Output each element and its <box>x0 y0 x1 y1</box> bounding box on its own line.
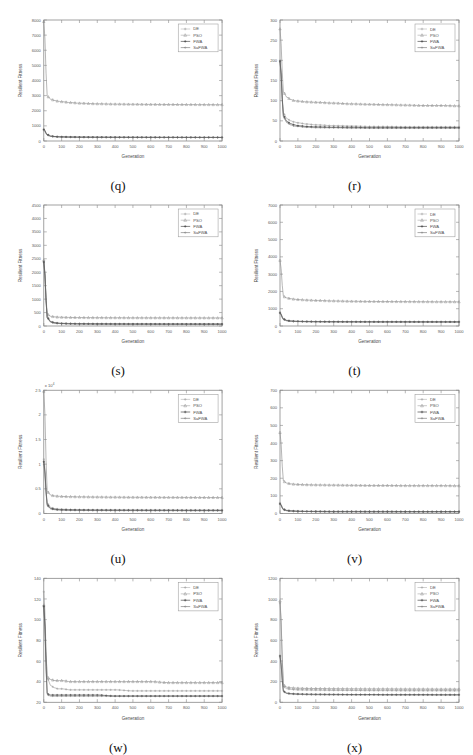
svg-text:Generation: Generation <box>122 154 145 159</box>
svg-text:SaFWA: SaFWA <box>193 45 207 50</box>
svg-text:0: 0 <box>43 517 46 522</box>
svg-text:Generation: Generation <box>122 527 145 532</box>
svg-text:600: 600 <box>147 144 155 149</box>
svg-text:20: 20 <box>36 700 41 705</box>
svg-text:4000: 4000 <box>268 254 278 259</box>
svg-text:900: 900 <box>201 144 209 149</box>
svg-text:400: 400 <box>348 329 356 334</box>
svg-text:SaFWA: SaFWA <box>193 416 207 421</box>
svg-text:Resilient Fitness: Resilient Fitness <box>18 434 23 469</box>
svg-text:1000: 1000 <box>32 123 42 128</box>
svg-text:300: 300 <box>330 144 338 149</box>
svg-text:800: 800 <box>183 144 191 149</box>
svg-text:5000: 5000 <box>32 63 42 68</box>
svg-text:700: 700 <box>402 144 410 149</box>
svg-text:4000: 4000 <box>32 78 42 83</box>
svg-text:800: 800 <box>183 329 191 334</box>
svg-text:400: 400 <box>112 705 119 710</box>
svg-text:600: 600 <box>270 638 278 643</box>
svg-text:200: 200 <box>76 144 84 149</box>
svg-text:1000: 1000 <box>268 597 278 602</box>
panel-caption-s: (s) <box>0 364 236 377</box>
svg-text:900: 900 <box>201 517 208 522</box>
svg-text:FWA: FWA <box>193 598 202 603</box>
svg-text:2000: 2000 <box>268 289 278 294</box>
svg-text:800: 800 <box>270 617 278 622</box>
faint-header-text <box>40 1 440 8</box>
svg-text:PSO: PSO <box>193 33 203 38</box>
svg-text:Generation: Generation <box>358 716 381 721</box>
svg-text:100: 100 <box>294 517 302 522</box>
svg-text:7000: 7000 <box>32 33 42 38</box>
svg-text:DE: DE <box>193 26 199 31</box>
svg-text:0: 0 <box>279 517 282 522</box>
svg-text:FWA: FWA <box>193 224 202 229</box>
figure-page: 0100020003000400050006000700080000100200… <box>0 0 473 755</box>
svg-text:600: 600 <box>147 329 155 334</box>
svg-text:900: 900 <box>438 517 446 522</box>
svg-text:200: 200 <box>76 329 84 334</box>
svg-text:FWA: FWA <box>430 39 439 44</box>
panel-caption-t: (t) <box>236 364 473 377</box>
svg-text:SaFWA: SaFWA <box>430 604 444 609</box>
svg-text:2.5: 2.5 <box>35 388 41 393</box>
svg-text:8000: 8000 <box>32 18 42 23</box>
panel-cell-v: 0100200300400500600700010020030040050060… <box>236 378 473 566</box>
svg-text:0: 0 <box>275 139 278 144</box>
svg-text:300: 300 <box>330 329 338 334</box>
svg-text:PSO: PSO <box>193 403 203 408</box>
panel-caption-v: (v) <box>236 552 473 565</box>
svg-text:900: 900 <box>201 705 208 710</box>
svg-text:700: 700 <box>402 705 410 710</box>
svg-text:FWA: FWA <box>193 409 202 414</box>
svg-text:4500: 4500 <box>32 203 42 208</box>
panel-cell-t: 0100020003000400050006000700001002003004… <box>236 193 473 378</box>
svg-text:SaFWA: SaFWA <box>430 230 444 235</box>
svg-text:0: 0 <box>275 700 278 705</box>
svg-text:60: 60 <box>36 659 41 664</box>
svg-text:300: 300 <box>330 517 338 522</box>
svg-text:500: 500 <box>366 517 374 522</box>
svg-text:1200: 1200 <box>268 576 278 581</box>
svg-text:PSO: PSO <box>430 33 440 38</box>
panel-cell-u: 00.511.522.50100200300400500600700800900… <box>0 378 236 566</box>
svg-text:500: 500 <box>130 329 138 334</box>
svg-text:0: 0 <box>279 144 282 149</box>
svg-text:100: 100 <box>58 329 66 334</box>
svg-text:PSO: PSO <box>430 591 440 596</box>
svg-text:FWA: FWA <box>430 598 439 603</box>
panel-cell-w: 2040608010012014001002003004005006007008… <box>0 566 236 755</box>
convergence-plot-r: 0501001502002503000100200300400500600700… <box>236 8 473 171</box>
svg-text:600: 600 <box>384 517 392 522</box>
svg-text:1000: 1000 <box>454 705 464 710</box>
svg-text:700: 700 <box>402 329 410 334</box>
svg-text:PSO: PSO <box>193 218 203 223</box>
svg-text:1000: 1000 <box>454 144 464 149</box>
svg-text:PSO: PSO <box>430 403 440 408</box>
svg-text:Resilient Fitness: Resilient Fitness <box>18 248 23 282</box>
svg-text:100: 100 <box>294 144 302 149</box>
svg-text:200: 200 <box>270 679 278 684</box>
svg-text:600: 600 <box>384 329 392 334</box>
svg-text:Generation: Generation <box>122 716 145 721</box>
convergence-plot-q: 0100020003000400050006000700080000100200… <box>0 8 236 171</box>
svg-text:1000: 1000 <box>454 517 464 522</box>
svg-text:3000: 3000 <box>268 272 278 277</box>
svg-text:200: 200 <box>270 58 278 63</box>
svg-text:Resilient Fitness: Resilient Fitness <box>254 63 259 97</box>
svg-text:400: 400 <box>348 517 356 522</box>
svg-text:2: 2 <box>39 412 42 417</box>
svg-text:600: 600 <box>384 144 392 149</box>
svg-text:700: 700 <box>270 388 278 393</box>
svg-text:900: 900 <box>438 705 446 710</box>
panel-caption-r: (r) <box>236 179 473 192</box>
svg-text:100: 100 <box>34 617 41 622</box>
panel-caption-w: (w) <box>0 741 236 754</box>
svg-text:2000: 2000 <box>32 270 42 275</box>
svg-text:FWA: FWA <box>430 224 439 229</box>
svg-text:6000: 6000 <box>32 48 42 53</box>
panel-grid: 0100020003000400050006000700080000100200… <box>0 8 473 755</box>
panel-caption-u: (u) <box>0 552 236 565</box>
svg-text:700: 700 <box>165 329 173 334</box>
svg-text:400: 400 <box>270 659 278 664</box>
